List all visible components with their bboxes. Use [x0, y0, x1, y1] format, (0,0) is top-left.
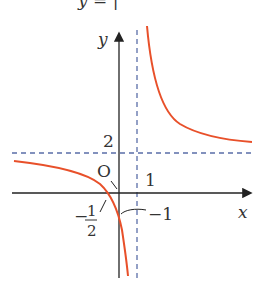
origin-label: O: [97, 161, 111, 181]
y-intercept-label: −1: [148, 204, 173, 224]
x-intercept-denominator: 2: [87, 222, 97, 240]
right-branch: [147, 26, 252, 142]
x-axis-label: x: [238, 202, 248, 222]
tick-1: 1: [145, 170, 156, 190]
origin-pointer: [111, 181, 117, 189]
x-intercept-pointer: [100, 200, 106, 212]
tick-2: 2: [103, 131, 114, 151]
x-intercept-numerator: 1: [87, 202, 97, 220]
hyperbola-graph: y = | y x 2 1 O −1 − 1 2: [0, 0, 267, 289]
y-intercept-pointer: [121, 209, 146, 214]
top-text: y = |: [77, 0, 118, 10]
y-axis-label: y: [97, 29, 108, 49]
